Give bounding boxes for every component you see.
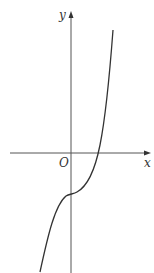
y-axis-arrow-icon (69, 11, 74, 18)
y-axis-label: y (58, 8, 66, 22)
function-curve (40, 30, 113, 272)
function-graph: y O x (0, 0, 154, 273)
origin-label: O (59, 156, 69, 170)
x-axis-label: x (144, 156, 151, 170)
x-axis-arrow-icon (144, 151, 151, 156)
